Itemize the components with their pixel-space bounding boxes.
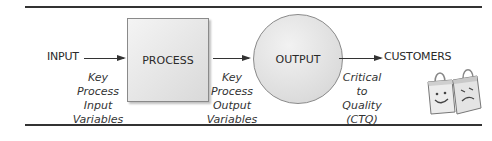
kpov-line-1: Key xyxy=(202,71,262,85)
kpiv-line-2: Process xyxy=(68,85,128,99)
top-divider xyxy=(25,6,482,8)
bottom-divider xyxy=(25,124,482,126)
input-label: INPUT xyxy=(47,50,79,63)
arrow-input-to-process xyxy=(84,58,124,59)
ctq-line-1: Critical xyxy=(336,71,388,85)
kpov-note: Key Process Output Variables xyxy=(202,71,262,127)
kpiv-line-1: Key xyxy=(68,71,128,85)
kpiv-note: Key Process Input Variables xyxy=(68,71,128,127)
kpiv-line-3: Input xyxy=(68,99,128,113)
happy-bag-icon xyxy=(428,73,455,114)
arrow-process-to-output xyxy=(213,58,249,59)
ctq-line-2: to xyxy=(336,85,388,99)
customers-label: CUSTOMERS xyxy=(384,50,451,63)
shopping-bags-icon xyxy=(425,68,485,120)
kpov-line-2: Process xyxy=(202,85,262,99)
output-circle: OUTPUT xyxy=(253,14,343,104)
ctq-line-3: Quality xyxy=(336,99,388,113)
process-box: PROCESS xyxy=(127,18,209,102)
output-label: OUTPUT xyxy=(276,53,321,66)
ctq-note: Critical to Quality (CTQ) xyxy=(336,71,388,127)
kpov-line-3: Output xyxy=(202,99,262,113)
arrow-output-to-customers xyxy=(339,58,381,59)
sad-bag-icon xyxy=(453,70,481,114)
process-label: PROCESS xyxy=(142,54,194,67)
